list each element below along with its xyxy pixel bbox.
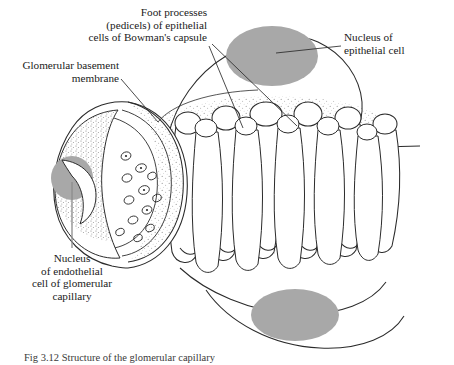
figure-canvas: Foot processes (pedicels) of epithelial …: [0, 0, 454, 365]
pedicel: [314, 117, 344, 264]
pedicel: [232, 117, 262, 270]
pedicel: [192, 119, 222, 272]
epithelial-nucleus-upper: [226, 26, 318, 86]
label-glomerular-basement-membrane: Glomerular basement membrane: [22, 59, 119, 84]
label-foot-processes: Foot processes (pedicels) of epithelial …: [88, 6, 207, 44]
pedicel: [274, 115, 304, 268]
label-nucleus-of-epithelial-cell: Nucleus of epithelial cell: [344, 31, 405, 56]
label-nucleus-of-endothelial-cell: Nucleus of endothelial cell of glomerula…: [14, 252, 130, 302]
pedicel: [354, 124, 382, 260]
figure-caption: Fig 3.12 Structure of the glomerular cap…: [24, 352, 215, 365]
epithelial-nucleus-lower: [251, 289, 339, 341]
